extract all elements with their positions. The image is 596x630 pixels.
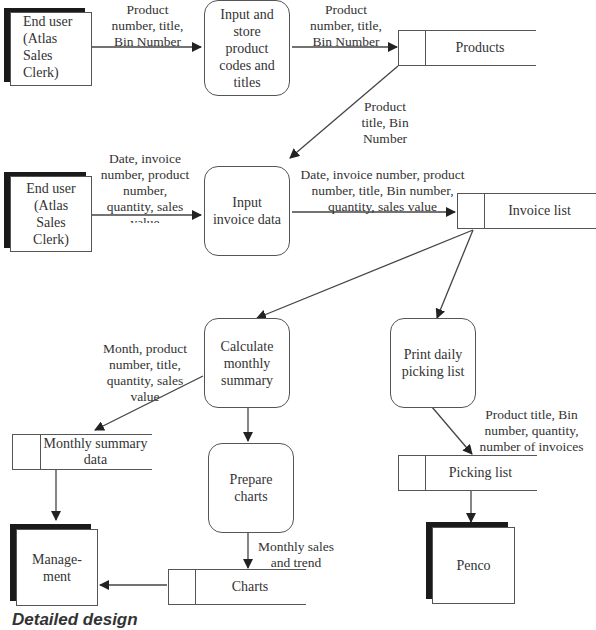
flow-label-line: Date, invoice number, product <box>300 167 465 183</box>
flow-label-line: number, title, <box>100 357 190 373</box>
store-label: Monthly summary data <box>39 435 152 469</box>
flow-label-line: Monthly sales <box>254 539 338 555</box>
flow-label-picking-to-store: Product title, Bin number, quantity, num… <box>474 407 589 455</box>
entity-line: Sales <box>36 214 66 231</box>
entity-line: Sales <box>23 47 53 64</box>
process-line: Print daily <box>404 346 463 363</box>
flow-label-charts-to-store: Monthly sales and trend <box>254 539 338 571</box>
data-store-picking-list: Picking list <box>398 455 537 491</box>
flow-label-line: and trend <box>254 555 338 571</box>
store-label: Charts <box>194 570 306 604</box>
flow-label-line: number, title, <box>296 18 396 34</box>
flow-label-line: Bin Number <box>296 34 396 50</box>
process-line: charts <box>234 488 267 505</box>
process-calculate-monthly-summary: Calculate monthly summary <box>204 318 290 408</box>
entity-line: Clerk) <box>33 231 69 248</box>
flow-label-line: number, quantity, <box>474 423 589 439</box>
process-line: invoice data <box>213 211 281 228</box>
flow-label-line: number, title, <box>100 18 195 34</box>
process-line: codes and <box>219 57 275 74</box>
store-label: Picking list <box>424 456 537 490</box>
flow-label-line: Product <box>355 99 415 115</box>
store-label-line: Monthly summary <box>44 436 148 452</box>
entity-line: Manage- <box>32 551 82 568</box>
process-line: product <box>226 40 269 57</box>
diagram-caption: Detailed design <box>12 610 138 630</box>
store-label: Products <box>424 31 536 65</box>
flow-label-line: quantity, sales value <box>300 199 465 215</box>
flow-label-line: value <box>95 215 195 223</box>
store-label-line: data <box>84 452 107 468</box>
flow-label-line: quantity, sales <box>100 373 190 389</box>
entity-line: Clerk) <box>23 64 59 81</box>
flow-label-line: number of invoices <box>474 439 589 455</box>
flow-label-line: title, Bin <box>355 115 415 131</box>
flow-label-line: number, product <box>95 167 195 183</box>
flow-label-line: quantity, sales <box>95 199 195 215</box>
process-line: monthly <box>224 355 271 372</box>
entity-line: (Atlas <box>23 30 57 47</box>
flow-label-products-to-invoice-input: Product title, Bin Number <box>355 99 415 147</box>
process-line: titles <box>233 74 260 91</box>
flow-label-line: number, title, Bin number, <box>300 183 465 199</box>
process-line: picking list <box>402 363 465 380</box>
external-entity-management: Manage- ment <box>10 524 98 606</box>
external-entity-penco: Penco <box>426 522 516 604</box>
process-line: store <box>233 23 260 40</box>
process-line: Calculate <box>221 338 274 355</box>
flow-label-line: Product title, Bin <box>474 407 589 423</box>
process-prepare-charts: Prepare charts <box>208 443 294 533</box>
process-input-invoice-data: Input invoice data <box>204 166 290 256</box>
data-store-monthly-summary: Monthly summary data <box>12 434 152 470</box>
flow-label-clerk-to-input-products: Product number, title, Bin Number <box>100 2 195 50</box>
flow-label-line: value <box>100 389 190 405</box>
entity-line: End user <box>26 180 75 197</box>
process-line: Input <box>232 194 262 211</box>
flow-label-line: Bin Number <box>100 34 195 50</box>
flow-label-clerk-to-invoice-input: Date, invoice number, product number, qu… <box>95 151 195 223</box>
external-entity-clerk-1: End user (Atlas Sales Clerk) <box>4 8 92 86</box>
entity-line: (Atlas <box>34 197 68 214</box>
flow-label-line: Product <box>296 2 396 18</box>
flow-label-line: Product <box>100 2 195 18</box>
process-line: Prepare <box>230 471 273 488</box>
flow-label-line: number, <box>95 183 195 199</box>
flow-label-line: Number <box>355 131 415 147</box>
external-entity-clerk-2: End user (Atlas Sales Clerk) <box>4 172 92 252</box>
process-line: Input and <box>220 6 273 23</box>
flow-label-line: Month, product <box>100 341 190 357</box>
process-print-daily-picking-list: Print daily picking list <box>390 318 476 408</box>
data-store-invoice-list: Invoice list <box>457 193 596 229</box>
process-input-store-products: Input and store product codes and titles <box>204 0 290 96</box>
entity-line: Penco <box>456 557 490 574</box>
flow-label-input-to-products: Product number, title, Bin Number <box>296 2 396 50</box>
entity-line: ment <box>43 568 71 585</box>
process-line: summary <box>221 372 273 389</box>
entity-line: End user <box>23 13 72 30</box>
flow-label-line: Date, invoice <box>95 151 195 167</box>
data-store-products: Products <box>398 30 536 66</box>
flow-label-monthly-to-store: Month, product number, title, quantity, … <box>100 341 190 405</box>
data-store-charts: Charts <box>168 569 306 605</box>
store-label: Invoice list <box>483 194 596 228</box>
flow-label-invoice-input-to-invoice-list: Date, invoice number, product number, ti… <box>300 167 465 215</box>
